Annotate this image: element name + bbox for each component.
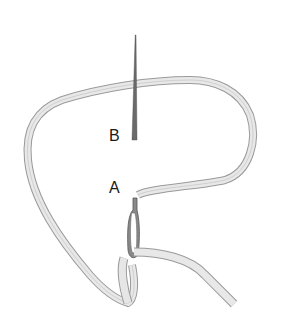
ribbon-twist [122, 258, 128, 303]
stitch-illustration [0, 0, 284, 336]
label-point-a: A [109, 180, 120, 196]
label-point-b: B [109, 128, 120, 144]
ribbon-tail [134, 252, 234, 304]
ribbon-main [27, 80, 252, 303]
